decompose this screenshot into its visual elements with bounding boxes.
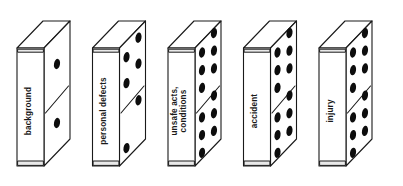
domino-top-bevel xyxy=(18,49,44,52)
domino-top-bevel xyxy=(93,49,119,52)
domino-bottom-strip xyxy=(320,161,346,165)
domino-bottom-strip xyxy=(93,161,119,165)
domino-label-unsafe-acts-conditions: unsafe acts, xyxy=(170,86,179,135)
domino-top-bevel xyxy=(169,49,195,52)
domino-label-background: background xyxy=(24,87,33,135)
domino-bottom-strip xyxy=(18,161,44,165)
domino-diagram-canvas: backgroundpersonal defectsunsafe acts,co… xyxy=(0,0,403,186)
domino-label-injury: injury xyxy=(326,99,335,122)
domino-injury[interactable]: injury xyxy=(319,21,372,166)
domino-top-bevel xyxy=(320,49,346,52)
domino-label-personal-defects: personal defects xyxy=(99,77,108,145)
domino-group: backgroundpersonal defectsunsafe acts,co… xyxy=(17,21,372,166)
domino-label-accident: accident xyxy=(250,94,259,129)
domino-background[interactable]: background xyxy=(17,21,70,166)
domino-unsafe-acts-conditions[interactable]: unsafe acts,conditions xyxy=(168,21,221,166)
domino-label-unsafe-acts-conditions: conditions xyxy=(179,89,188,132)
domino-bottom-strip xyxy=(169,161,195,165)
domino-bottom-strip xyxy=(244,161,270,165)
domino-sequence-diagram: backgroundpersonal defectsunsafe acts,co… xyxy=(0,0,403,186)
domino-personal-defects[interactable]: personal defects xyxy=(93,21,146,166)
domino-top-bevel xyxy=(244,49,270,52)
domino-accident[interactable]: accident xyxy=(244,21,297,166)
